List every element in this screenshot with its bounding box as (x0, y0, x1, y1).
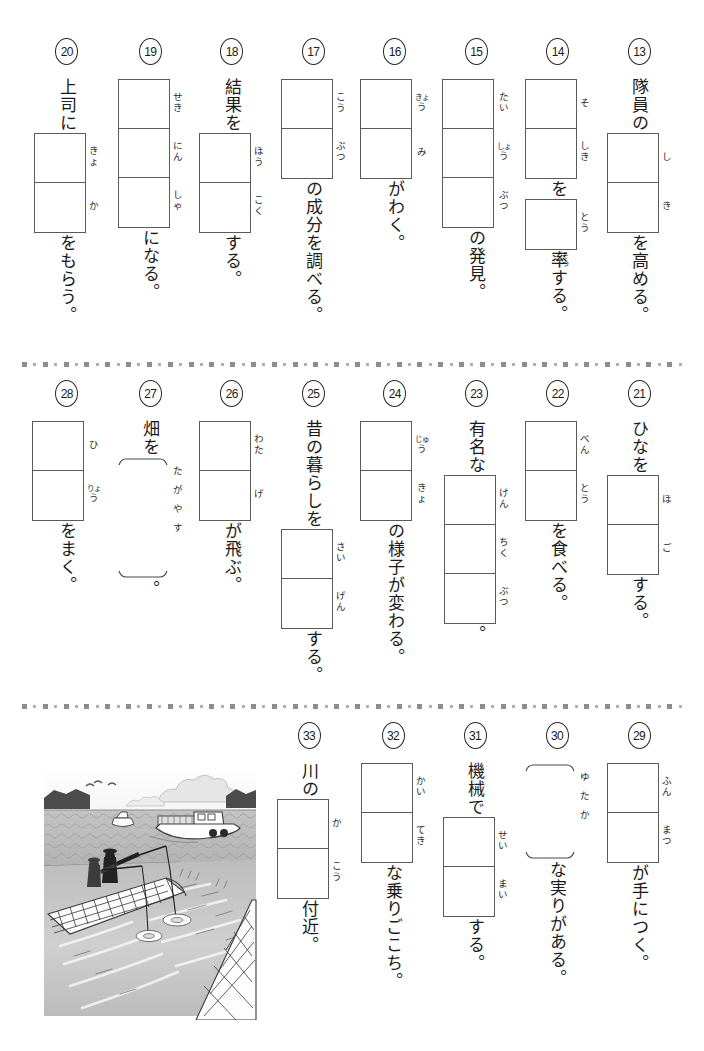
answer-cell[interactable] (119, 129, 169, 178)
furigana-segment: きょう (415, 79, 429, 128)
answer-cell[interactable] (526, 129, 576, 178)
divider-dot (387, 363, 390, 366)
answer-box-group: たいしょうぶつ (442, 79, 511, 228)
write-in-brace[interactable] (117, 457, 169, 579)
answer-cell[interactable] (361, 471, 411, 520)
answer-cell[interactable] (33, 422, 83, 471)
divider-dot (33, 705, 36, 708)
furigana-column: こうぶつ (336, 79, 346, 177)
furigana-char: た (580, 792, 590, 802)
divider-dot (126, 704, 131, 709)
ruby-annotation: そつ (561, 252, 568, 268)
problem-number-13: 13 (628, 38, 651, 65)
divider-row1-row2 (22, 361, 682, 367)
answer-cell[interactable] (282, 80, 332, 129)
answer-cell[interactable] (526, 471, 576, 520)
furigana-char: せ (498, 831, 508, 841)
divider-dot (376, 704, 381, 709)
answer-cell[interactable] (608, 134, 658, 183)
divider-dot (533, 705, 536, 708)
problem-number-21: 21 (628, 380, 651, 407)
furigana-char: く (254, 207, 264, 217)
furigana-char: つ (499, 202, 509, 212)
answer-box-group: せきにんしゃ (118, 79, 183, 228)
answer-cell[interactable] (526, 80, 576, 129)
furigana-segment: じゅう (415, 421, 429, 470)
divider-dot (563, 362, 568, 367)
problem-22: 22べんとうを食べる。 (517, 380, 599, 612)
answer-cell[interactable] (443, 129, 493, 178)
problem-body: 上司にきょかをもらう。 (34, 78, 99, 324)
sentence-suffix: する。 (304, 630, 323, 684)
answer-cell[interactable] (119, 178, 169, 227)
answer-cell[interactable] (282, 579, 332, 628)
answer-cell[interactable] (200, 183, 250, 232)
divider-dot (470, 363, 473, 366)
divider-dot (658, 363, 661, 366)
furigana-column: とう (580, 199, 590, 248)
furigana-char: う (89, 494, 99, 504)
answer-boxes (32, 421, 84, 521)
answer-cell[interactable] (445, 525, 495, 574)
answer-cell[interactable] (361, 80, 411, 129)
furigana-segment: ふん (662, 763, 672, 812)
answer-cell[interactable] (362, 764, 412, 813)
write-in-brace[interactable] (524, 763, 576, 860)
answer-cell[interactable] (278, 849, 328, 898)
problem-body: 隊員のしきを高める。 (607, 78, 672, 324)
answer-cell[interactable] (444, 867, 494, 916)
answer-cell[interactable] (119, 80, 169, 129)
answer-cell[interactable] (362, 813, 412, 862)
problem-number-32: 32 (382, 722, 405, 749)
answer-cell[interactable] (200, 422, 250, 471)
answer-cell[interactable] (282, 129, 332, 178)
answer-cell[interactable] (361, 422, 411, 471)
answer-cell[interactable] (35, 134, 85, 183)
sentence-prefix: ひなを (630, 420, 649, 474)
answer-cell[interactable] (200, 134, 250, 183)
divider-dot (251, 362, 256, 367)
divider-dot (408, 363, 411, 366)
problem-number-22: 22 (546, 380, 569, 407)
divider-dot (667, 362, 672, 367)
answer-cell[interactable] (282, 530, 332, 579)
divider-dot (200, 705, 203, 708)
problem-body: 機械でせいまいする。 (443, 762, 508, 972)
problem-23: 23有名なけんちくぶつ。 (436, 380, 518, 643)
answer-boxes (525, 79, 577, 179)
answer-cell[interactable] (444, 818, 494, 867)
divider-dot (22, 362, 27, 367)
answer-cell[interactable] (608, 476, 658, 525)
divider-dot (251, 704, 256, 709)
furigana-segment: まい (498, 866, 508, 915)
answer-cell[interactable] (33, 471, 83, 520)
answer-cell[interactable] (526, 200, 576, 249)
brace-top-icon (117, 457, 169, 466)
answer-box-group: とう (525, 199, 590, 250)
furigana-segment: べん (580, 421, 590, 470)
answer-cell[interactable] (608, 813, 658, 862)
answer-cell[interactable] (35, 183, 85, 232)
answer-cell[interactable] (361, 129, 411, 178)
divider-dot (554, 363, 557, 366)
answer-box-group: そしき (525, 79, 590, 179)
divider-dot (117, 363, 120, 366)
answer-cell[interactable] (526, 422, 576, 471)
answer-cell[interactable] (608, 525, 658, 574)
answer-cell[interactable] (200, 471, 250, 520)
sentence-suffix: をもらう。 (57, 234, 76, 324)
answer-cell[interactable] (443, 80, 493, 129)
answer-cell[interactable] (608, 764, 658, 813)
answer-cell[interactable] (445, 476, 495, 525)
furigana-char: こ (254, 196, 264, 206)
divider-dot (355, 704, 360, 709)
answer-cell[interactable] (445, 574, 495, 623)
furigana-segment: まつ (662, 812, 672, 861)
answer-cell[interactable] (608, 183, 658, 232)
furigana-column: きょか (89, 133, 99, 231)
furigana-char: と (580, 484, 590, 494)
answer-cell[interactable] (443, 178, 493, 227)
answer-cell[interactable] (278, 800, 328, 849)
furigana-segment: し (662, 133, 672, 182)
furigana-char: げ (336, 592, 346, 602)
